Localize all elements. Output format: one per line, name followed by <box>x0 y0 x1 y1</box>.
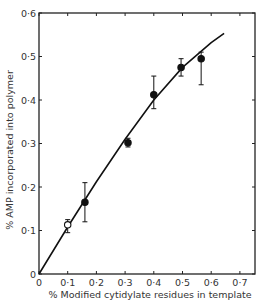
x-tick-label: 0·4 <box>146 277 161 288</box>
y-tick-label: 0·6 <box>21 8 36 19</box>
x-axis-title: % Modified cytidylate residues in templa… <box>48 289 251 300</box>
plot-frame <box>39 13 255 274</box>
x-tick-label: 0·2 <box>89 277 104 288</box>
data-point <box>198 52 204 85</box>
x-tick-label: 0·3 <box>118 277 133 288</box>
y-axis-ticks: 00·10·20·30·40·50·6 <box>21 8 255 280</box>
data-points <box>65 52 205 233</box>
y-tick-label: 0 <box>30 269 36 280</box>
y-tick-label: 0·1 <box>21 225 36 236</box>
fitted-curve <box>39 33 224 274</box>
x-tick-label: 0·6 <box>204 277 219 288</box>
y-tick-label: 0·5 <box>21 51 36 62</box>
x-axis-ticks: 00·10·20·30·40·50·60·7 <box>36 13 247 288</box>
data-point <box>178 59 184 76</box>
data-point <box>82 183 88 222</box>
x-tick-label: 0·7 <box>232 277 247 288</box>
x-tick-label: 0·5 <box>175 277 190 288</box>
y-tick-label: 0·4 <box>21 95 36 106</box>
chart: 00·10·20·30·40·50·60·7 00·10·20·30·40·50… <box>0 0 266 306</box>
x-tick-label: 0·1 <box>60 277 75 288</box>
y-tick-label: 0·2 <box>21 182 36 193</box>
y-axis-title: % AMP incorporated into polymer <box>4 70 15 230</box>
x-tick-label: 0 <box>36 277 42 288</box>
y-tick-label: 0·3 <box>21 138 36 149</box>
